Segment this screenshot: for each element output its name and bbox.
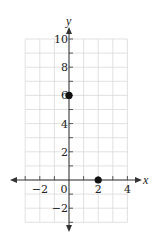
data-point [95,176,102,183]
tick-labels: −2024108642−2 [32,33,131,215]
data-point [65,92,72,99]
y-tick-label: 4 [61,118,68,131]
x-tick-label: 0 [61,183,68,196]
y-tick-label: 2 [61,146,68,159]
x-tick-label: 2 [95,183,102,196]
x-tick-label: −2 [32,183,48,196]
x-axis-label: x [142,173,149,187]
y-axis-down-arrow-icon [66,225,72,232]
axes [10,27,142,232]
y-axis-label: y [65,14,72,28]
x-axis-left-arrow-icon [10,177,17,183]
coordinate-plane: −2024108642−2 x y [0,0,161,249]
x-tick-label: 4 [124,183,131,196]
x-axis-right-arrow-icon [135,177,142,183]
y-tick-label: 8 [61,61,68,74]
y-tick-label: 10 [54,33,68,46]
y-tick-label: −2 [52,202,68,215]
